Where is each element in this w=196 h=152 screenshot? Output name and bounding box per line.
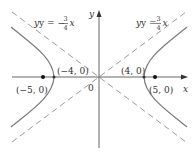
svg-text:3: 3	[157, 15, 161, 23]
origin-label: 0	[88, 83, 94, 93]
svg-text:x: x	[70, 18, 75, 28]
vertex-point-left	[53, 76, 56, 79]
vertex-label-right: (4, 0)	[121, 66, 145, 76]
svg-text:4: 4	[64, 24, 68, 32]
asymptote-label-negative: yy = − 3 4 x	[33, 15, 75, 32]
x-axis-label: x	[183, 84, 188, 94]
svg-text:4: 4	[157, 24, 161, 32]
svg-text:yy = −: yy = −	[33, 18, 65, 28]
focus-point-right	[153, 75, 157, 79]
focus-point-left	[41, 75, 45, 79]
svg-text:x: x	[163, 18, 168, 28]
focus-label-left: (−5, 0)	[16, 85, 48, 95]
asymptote-label-positive: yy = 3 4 x	[135, 15, 168, 32]
focus-label-right: (5, 0)	[149, 85, 173, 95]
svg-text:3: 3	[64, 15, 68, 23]
hyperbola-diagram: y x 0 (−5, 0) (−4, 0) (4, 0) (5, 0) yy =…	[0, 0, 196, 152]
y-axis-label: y	[88, 9, 95, 19]
svg-text:yy =: yy =	[135, 18, 157, 28]
vertex-label-left: (−4, 0)	[57, 66, 89, 76]
x-axis-arrow-icon	[181, 75, 188, 80]
y-axis-arrow-icon	[97, 10, 102, 17]
